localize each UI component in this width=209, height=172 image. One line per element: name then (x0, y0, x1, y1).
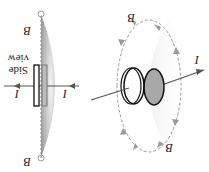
side-view (4, 11, 79, 161)
side-view-label: Side view (8, 53, 29, 76)
capacitor-field-diagram (0, 0, 209, 172)
side-plate-shaded (42, 65, 47, 106)
current-arrow-left (196, 69, 204, 75)
perspective-view (91, 19, 204, 152)
label-i-perspective: I (195, 54, 199, 66)
label-b-perspective-bottom: B (128, 12, 135, 24)
capacitor-plate-shaded (144, 69, 164, 105)
label-i-side-left: I (63, 88, 67, 100)
label-i-side-right: I (15, 88, 19, 100)
side-current-arrow-in (69, 83, 75, 89)
label-b-perspective-top: B (166, 142, 173, 154)
label-b-top-left: B (24, 156, 31, 168)
label-b-bottom-left: B (24, 25, 31, 37)
side-label-line2: view (8, 53, 29, 65)
side-label-line1: Side (8, 64, 29, 76)
side-plate-outline (34, 65, 39, 106)
diagram-canvas: B B I I Side view I B B (0, 0, 209, 172)
